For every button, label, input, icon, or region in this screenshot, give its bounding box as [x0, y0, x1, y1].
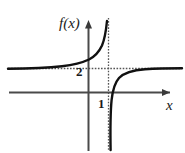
x-axis-arrowhead [162, 89, 170, 96]
y-axis-arrowhead [85, 20, 92, 29]
function-graph-figure: f(x) x 2 1 [0, 0, 185, 153]
x-tick-label-1: 1 [98, 97, 105, 110]
x-axis-label: x [166, 98, 173, 113]
y-tick-label-2: 2 [76, 65, 83, 78]
curve-left-branch [8, 21, 107, 69]
y-axis-label: f(x) [59, 16, 80, 31]
graph-canvas [0, 0, 185, 153]
